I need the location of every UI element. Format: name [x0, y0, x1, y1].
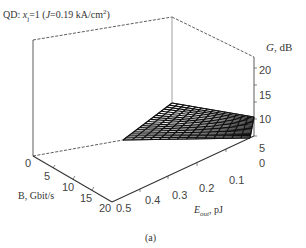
b-tick: 15	[80, 193, 92, 204]
e-tick: 0.4	[145, 195, 160, 206]
z-tick: 15	[259, 90, 271, 101]
b-tick: 5	[44, 171, 50, 182]
e-tick: 0.5	[116, 203, 131, 214]
chart-title: QD: xj=1 (J=0.19 kA/cm2)	[3, 9, 110, 23]
z-axis-ticks	[254, 68, 257, 136]
figure-caption: (a)	[145, 233, 156, 243]
e-tick: 0.1	[229, 175, 244, 186]
surface-chart: QD: xj=1 (J=0.19 kA/cm2) G, dB 20 15 10 …	[0, 0, 306, 248]
b-tick: 0	[25, 158, 31, 169]
e-tick: 0.2	[199, 183, 214, 194]
b-tick: 20	[99, 203, 111, 214]
e-axis-label: Eout, pJ	[194, 205, 223, 218]
z-tick: 5	[259, 143, 265, 154]
b-tick: 10	[62, 182, 74, 193]
z-axis-label: G, dB	[266, 42, 292, 53]
surface-mesh	[123, 103, 254, 140]
plot-box	[33, 17, 254, 202]
z-tick: 10	[259, 114, 271, 125]
e-tick: 0.3	[172, 190, 187, 201]
b-axis-label: B, Gbit/s	[18, 191, 54, 201]
z-tick: 20	[259, 65, 271, 76]
z-tick: 0	[259, 158, 265, 169]
